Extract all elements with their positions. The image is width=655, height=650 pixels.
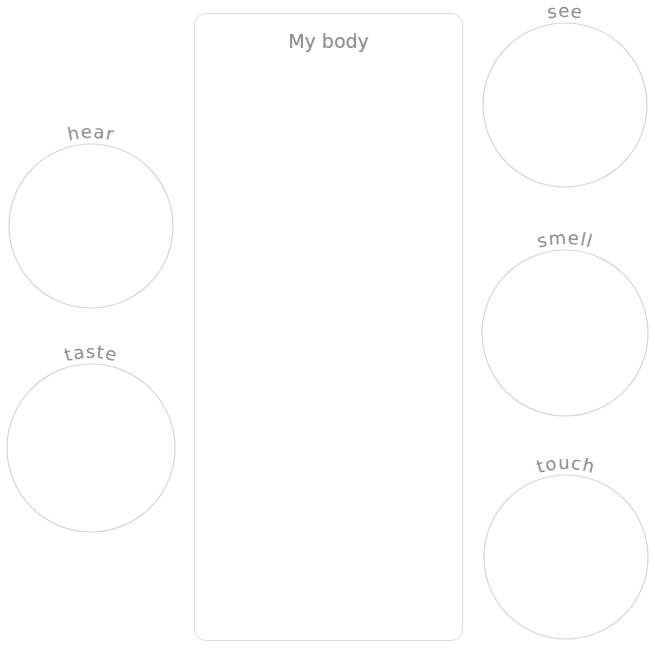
sense-hear: hear [9,121,173,308]
sense-circle-hear[interactable] [9,144,173,308]
sense-taste: taste [7,341,175,532]
senses-layer: heartasteseesmelltouch [0,0,655,650]
sense-label-touch: touch [534,452,598,477]
sense-smell: smell [482,227,648,416]
sense-circle-smell[interactable] [482,250,648,416]
sense-see: see [483,0,647,187]
sense-label-hear: hear [66,121,117,145]
sense-touch: touch [484,452,648,639]
sense-label-taste: taste [62,341,120,365]
sense-circle-see[interactable] [483,23,647,187]
sense-label-see: see [546,0,585,22]
sense-circle-touch[interactable] [484,475,648,639]
sense-circle-taste[interactable] [7,364,175,532]
sense-label-smell: smell [535,227,596,252]
